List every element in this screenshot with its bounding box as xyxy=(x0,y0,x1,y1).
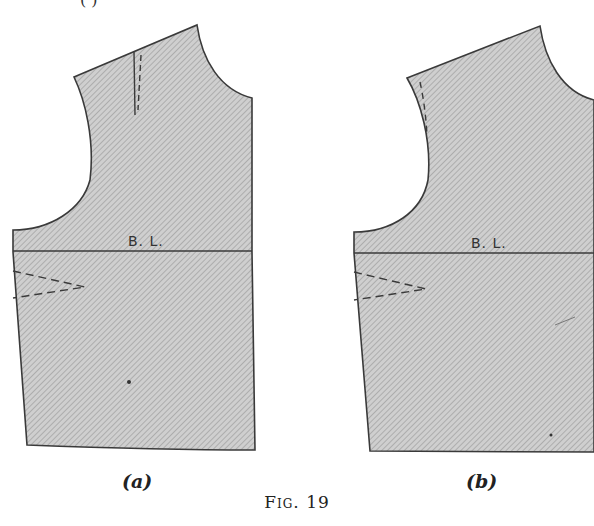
bodice-pattern-a: B. L. xyxy=(13,25,255,450)
panel-label-a: (a) xyxy=(122,470,152,492)
figure-caption: Fig. 19 xyxy=(0,492,594,512)
breast-line-label-b: B. L. xyxy=(471,235,507,251)
pattern-diagram: B. L. B. L. xyxy=(0,0,594,526)
mark-dot-b xyxy=(550,434,553,437)
mark-dot-a xyxy=(127,380,131,384)
panel-label-b: (b) xyxy=(466,470,497,492)
breast-line-label-a: B. L. xyxy=(128,233,164,249)
figure-caption-text: Fig. 19 xyxy=(264,492,330,512)
bodice-pattern-b: B. L. xyxy=(354,26,594,452)
